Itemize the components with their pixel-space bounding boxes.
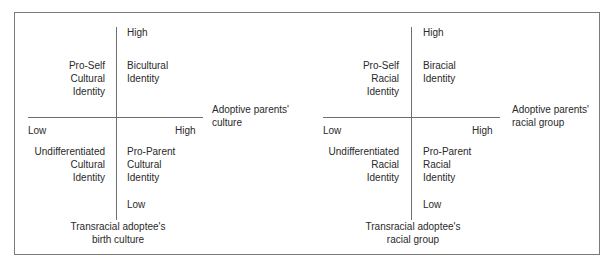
x-high-label: High bbox=[175, 124, 196, 137]
quadrant-line: Pro-Parent bbox=[127, 145, 175, 158]
quadrant-line: Racial bbox=[334, 72, 399, 85]
x-axis bbox=[323, 117, 500, 118]
quadrant-pro-parent: Pro-Parent Racial Identity bbox=[423, 145, 471, 184]
quadrant-line: Racial bbox=[314, 158, 399, 171]
quadrant-undifferentiated: Undifferentiated Racial Identity bbox=[314, 145, 399, 184]
quadrant-biracial: Biracial Identity bbox=[423, 59, 456, 85]
x-axis-title-line: Adoptive parents' bbox=[512, 103, 589, 116]
figure-frame bbox=[14, 12, 600, 255]
quadrant-line: Pro-Self bbox=[334, 59, 399, 72]
quadrant-line: Identity bbox=[127, 72, 168, 85]
y-high-label: High bbox=[423, 26, 444, 39]
quadrant-line: Identity bbox=[127, 171, 175, 184]
quadrant-line: Cultural bbox=[40, 72, 105, 85]
y-axis-title: Transracial adoptee's birth culture bbox=[58, 220, 178, 246]
y-axis-title-line: Transracial adoptee's bbox=[353, 220, 473, 233]
x-axis-title-line: racial group bbox=[512, 116, 589, 129]
y-high-label: High bbox=[127, 26, 148, 39]
quadrant-line: Undifferentiated bbox=[20, 145, 105, 158]
y-low-label: Low bbox=[127, 198, 145, 211]
y-axis-upper bbox=[116, 27, 117, 74]
quadrant-line: Cultural bbox=[127, 158, 175, 171]
quadrant-line: Pro-Parent bbox=[423, 145, 471, 158]
x-axis-title-line: Adoptive parents' bbox=[212, 103, 289, 116]
quadrant-line: Pro-Self bbox=[40, 59, 105, 72]
quadrant-line: Cultural bbox=[20, 158, 105, 171]
y-axis bbox=[411, 27, 412, 220]
quadrant-line: Identity bbox=[423, 171, 471, 184]
quadrant-line: Identity bbox=[314, 171, 399, 184]
quadrant-line: Biracial bbox=[423, 59, 456, 72]
quadrant-line: Identity bbox=[40, 85, 105, 98]
x-axis-title: Adoptive parents' racial group bbox=[512, 103, 589, 129]
x-axis bbox=[28, 117, 203, 118]
x-axis-title-line: culture bbox=[212, 116, 289, 129]
quadrant-pro-self: Pro-Self Cultural Identity bbox=[40, 59, 105, 98]
y-axis-title-line: Transracial adoptee's bbox=[58, 220, 178, 233]
x-low-label: Low bbox=[28, 124, 46, 137]
quadrant-bicultural: Bicultural Identity bbox=[127, 59, 168, 85]
y-axis-title-line: racial group bbox=[353, 233, 473, 246]
y-low-label: Low bbox=[423, 198, 441, 211]
quadrant-undifferentiated: Undifferentiated Cultural Identity bbox=[20, 145, 105, 184]
quadrant-line: Identity bbox=[334, 85, 399, 98]
quadrant-pro-self: Pro-Self Racial Identity bbox=[334, 59, 399, 98]
x-high-label: High bbox=[472, 124, 493, 137]
y-axis-title: Transracial adoptee's racial group bbox=[353, 220, 473, 246]
quadrant-pro-parent: Pro-Parent Cultural Identity bbox=[127, 145, 175, 184]
x-low-label: Low bbox=[323, 124, 341, 137]
quadrant-line: Racial bbox=[423, 158, 471, 171]
quadrant-line: Identity bbox=[20, 171, 105, 184]
y-axis-title-line: birth culture bbox=[58, 233, 178, 246]
x-axis-title: Adoptive parents' culture bbox=[212, 103, 289, 129]
quadrant-line: Identity bbox=[423, 72, 456, 85]
quadrant-line: Bicultural bbox=[127, 59, 168, 72]
quadrant-line: Undifferentiated bbox=[314, 145, 399, 158]
y-axis bbox=[116, 74, 117, 220]
